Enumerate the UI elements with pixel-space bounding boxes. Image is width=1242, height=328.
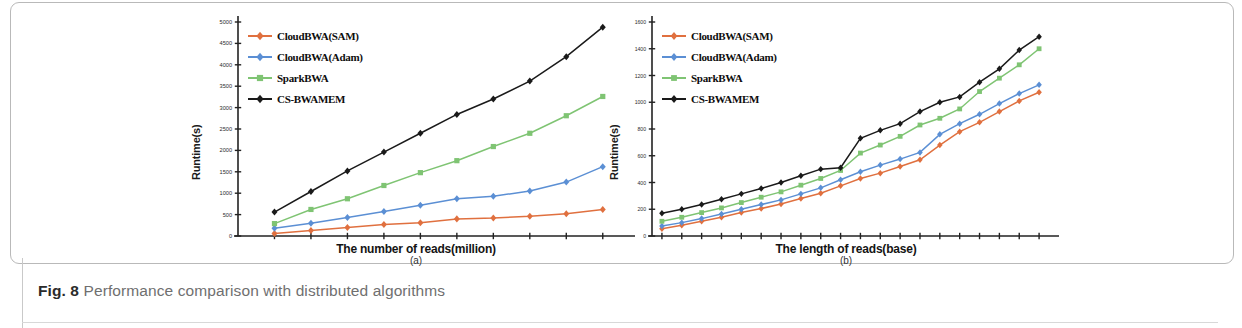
data-point (778, 197, 784, 203)
data-point (739, 200, 744, 205)
data-point (417, 219, 423, 226)
data-point (898, 134, 903, 139)
data-point (699, 201, 705, 207)
line-chart-b: 0200400600800100012001400160050100150200… (596, 8, 1076, 240)
legend-label: CloudBWA(SAM) (277, 30, 359, 43)
y-tick-label: 0 (229, 233, 232, 239)
y-tick-label: 600 (638, 153, 647, 159)
data-point (381, 183, 386, 188)
data-point (1017, 62, 1022, 67)
data-point (454, 158, 459, 163)
data-point (527, 78, 533, 85)
data-point (308, 188, 314, 195)
data-point (897, 156, 903, 162)
y-tick-label: 800 (638, 126, 647, 132)
data-point (957, 107, 962, 112)
y-tick-label: 2000 (220, 147, 232, 153)
line-chart-a: 0500100015002000250030003500400045005000… (176, 8, 646, 240)
chart-panel-b: 0200400600800100012001400160050100150200… (596, 8, 1076, 258)
legend-label: CloudBWA(Adam) (277, 51, 363, 64)
subfigure-label-a: (a) (236, 255, 596, 266)
data-point (308, 220, 314, 227)
data-point (659, 210, 665, 216)
data-point (257, 75, 263, 81)
bottom-rule (22, 322, 1218, 323)
data-point (454, 195, 460, 202)
data-point (779, 189, 784, 194)
data-point (454, 111, 460, 118)
data-point (1036, 82, 1042, 88)
legend-label: CS-BWAMEM (691, 93, 760, 105)
data-point (719, 206, 724, 211)
data-point (897, 163, 903, 169)
data-point (818, 166, 824, 172)
data-point (1016, 90, 1022, 96)
data-point (897, 120, 903, 126)
data-point (671, 75, 677, 81)
data-point (977, 89, 982, 94)
legend-label: CS-BWAMEM (277, 93, 346, 105)
data-point (671, 53, 678, 61)
y-axis-label-b: Runtime(s) (608, 125, 620, 180)
data-point (997, 108, 1003, 114)
data-point (878, 127, 884, 133)
data-point (838, 183, 844, 189)
data-point (798, 173, 804, 179)
data-point (527, 131, 532, 136)
caption-rule (22, 258, 23, 328)
data-point (308, 227, 314, 234)
y-tick-label: 4000 (220, 62, 232, 68)
y-tick-label: 1400 (635, 46, 646, 52)
legend-label: SparkBWA (277, 72, 329, 84)
figure-number: Fig. 8 (38, 282, 79, 299)
data-point (490, 193, 496, 200)
y-tick-label: 2500 (220, 126, 232, 132)
y-tick-label: 3500 (220, 83, 232, 89)
legend-label: SparkBWA (691, 72, 743, 84)
data-point (719, 196, 725, 202)
data-point (997, 100, 1003, 106)
series-sparkbwa (272, 94, 605, 226)
data-point (272, 221, 277, 226)
data-point (256, 95, 263, 103)
data-point (490, 215, 496, 222)
data-point (1036, 89, 1042, 95)
data-point (759, 195, 764, 200)
data-point (977, 111, 983, 117)
data-point (858, 169, 864, 175)
data-point (563, 210, 569, 217)
data-point (381, 208, 387, 215)
data-point (417, 202, 423, 209)
data-point (271, 209, 277, 216)
y-tick-label: 200 (638, 206, 647, 212)
chart-panel-a: 0500100015002000250030003500400045005000… (176, 8, 646, 258)
data-point (758, 201, 764, 207)
plot-area-a: 0500100015002000250030003500400045005000… (176, 8, 646, 258)
data-point (344, 224, 350, 231)
data-point (918, 123, 923, 128)
data-point (878, 143, 883, 148)
data-point (977, 119, 983, 125)
data-point (878, 162, 884, 168)
data-point (308, 207, 313, 212)
data-point (671, 32, 678, 40)
data-point (1016, 98, 1022, 104)
data-point (344, 167, 350, 174)
data-point (256, 32, 263, 40)
data-point (699, 210, 704, 215)
subfigure-label-b: (b) (666, 255, 1026, 266)
legend-label: CloudBWA(Adam) (691, 51, 777, 64)
x-axis-label-a: The number of reads(million) (236, 242, 596, 256)
data-point (660, 219, 665, 224)
data-point (344, 214, 350, 221)
chart-legend: CloudBWA(SAM)CloudBWA(Adam)SparkBWACS-BW… (248, 30, 363, 105)
data-point (778, 179, 784, 185)
data-point (739, 191, 745, 197)
data-point (758, 185, 764, 191)
data-point (454, 215, 460, 222)
data-point (527, 213, 533, 220)
data-point (858, 151, 863, 156)
y-tick-label: 500 (223, 212, 232, 218)
data-point (838, 177, 844, 183)
data-point (1037, 46, 1042, 51)
